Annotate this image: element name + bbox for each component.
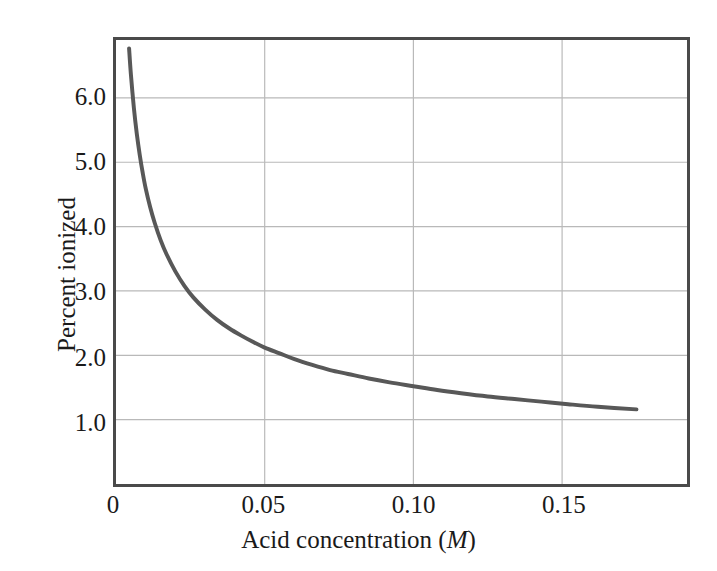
x-axis-title-text: Acid concentration ( xyxy=(241,526,446,553)
x-axis-tick-label: 0.05 xyxy=(203,492,323,517)
y-axis-title: Percent ionized xyxy=(54,125,79,425)
plot-area xyxy=(113,37,690,487)
x-axis-tick-label: 0.15 xyxy=(504,492,624,517)
x-axis-title: Acid concentration (M) xyxy=(0,527,717,552)
x-axis-tick-label: 0 xyxy=(53,492,173,517)
x-axis-tick-label: 0.10 xyxy=(354,492,474,517)
y-axis-tick-label: 6.0 xyxy=(46,83,106,108)
data-curve xyxy=(116,40,687,484)
x-axis-title-tail: ) xyxy=(467,526,475,553)
series-line xyxy=(129,48,636,409)
x-axis-unit-symbol: M xyxy=(447,526,468,553)
chart-figure: 1.02.03.04.05.06.0 00.050.100.15 Acid co… xyxy=(0,0,717,571)
